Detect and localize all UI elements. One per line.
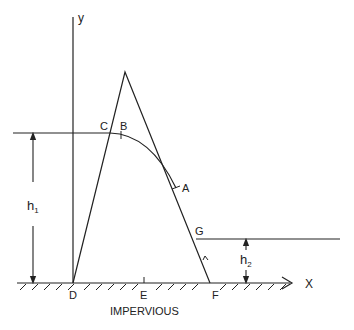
x-axis-label: X	[305, 277, 313, 291]
point-d-label: D	[69, 289, 77, 301]
flow-arrow-icon	[203, 256, 208, 260]
impervious-label: IMPERVIOUS	[110, 305, 179, 317]
dam-section	[73, 72, 210, 283]
diagram-svg: y X h1	[0, 0, 354, 330]
phreatic-line	[110, 133, 176, 188]
point-b-label: B	[120, 120, 127, 132]
h2-label: h2	[240, 252, 252, 269]
point-f-label: F	[212, 289, 219, 301]
impervious-hatching	[20, 284, 286, 290]
point-g-label: G	[195, 225, 204, 237]
point-e-label: E	[140, 289, 147, 301]
seepage-diagram: y X h1	[0, 0, 354, 330]
point-a-label: A	[182, 182, 190, 194]
tick-a	[172, 186, 180, 189]
point-c-label: C	[100, 120, 108, 132]
y-axis-label: y	[78, 11, 84, 25]
h1-label: h1	[27, 198, 39, 215]
